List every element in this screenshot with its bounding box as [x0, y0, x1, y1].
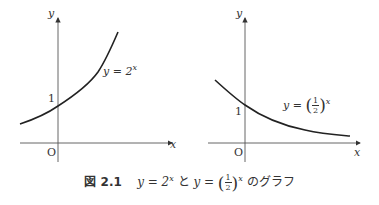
left-tick-one: 1: [48, 93, 55, 104]
right-curve-label: y = (12)x: [283, 96, 330, 115]
left-origin-label: O: [47, 147, 56, 158]
right-origin-label: O: [234, 147, 243, 158]
right-y-axis-label: y: [236, 8, 242, 19]
left-curve-label: y = 2x: [103, 64, 137, 77]
figure-caption: 図 2.1 y = 2x と y = (12)x のグラフ: [0, 172, 379, 193]
figure-number: 図 2.1: [84, 175, 121, 189]
left-y-axis-label: y: [48, 8, 54, 19]
left-x-axis-label: x: [170, 139, 176, 150]
right-tick-one: 1: [235, 106, 242, 117]
right-x-axis-label: x: [354, 147, 360, 158]
left-curve-2-pow-x: [20, 32, 118, 124]
